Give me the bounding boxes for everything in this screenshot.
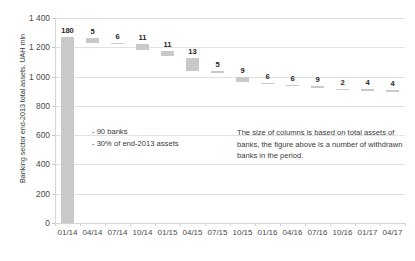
y-tick-label: 800 [16, 101, 50, 111]
x-tick-mark [280, 223, 281, 226]
x-tick-label: 04/15 [182, 228, 202, 237]
x-tick-mark [355, 223, 356, 226]
x-tick-mark [105, 223, 106, 226]
bar [336, 89, 349, 90]
bar [386, 90, 399, 91]
x-tick-mark [305, 223, 306, 226]
bar-value-label: 6 [265, 72, 269, 81]
y-tick-label: 400 [16, 159, 50, 169]
x-tick-label: 01/15 [157, 228, 177, 237]
bar-value-label: 9 [240, 66, 244, 75]
x-tick-mark [330, 223, 331, 226]
x-tick-label: 01/17 [357, 228, 377, 237]
gridline [55, 106, 405, 107]
x-tick-label: 04/14 [82, 228, 102, 237]
waterfall-chart: Banking sector end-2013 total assets, UA… [0, 0, 415, 261]
bar [161, 51, 174, 57]
gridline [55, 194, 405, 195]
x-tick-mark [230, 223, 231, 226]
x-tick-label: 10/16 [332, 228, 352, 237]
annotation-summary-banks: - 90 banks - 30% of end-2013 assets [92, 126, 212, 149]
x-tick-label: 10/14 [132, 228, 152, 237]
y-tick-label: 200 [16, 189, 50, 199]
x-tick-mark [155, 223, 156, 226]
bar-value-label: 11 [138, 33, 146, 42]
bar [311, 86, 324, 88]
bar-value-label: 4 [390, 79, 394, 88]
bar [136, 44, 149, 50]
x-tick-label: 10/15 [232, 228, 252, 237]
bar [111, 43, 124, 44]
bar [361, 89, 374, 90]
x-tick-mark [55, 223, 56, 226]
bar-value-label: 9 [315, 75, 319, 84]
y-tick-label: 600 [16, 130, 50, 140]
bar-value-label: 2 [340, 78, 344, 87]
plot-area [55, 18, 405, 223]
y-tick-label: 0 [16, 218, 50, 228]
x-tick-label: 07/15 [207, 228, 227, 237]
y-tick-label: 1 000 [16, 72, 50, 82]
x-tick-label: 04/16 [282, 228, 302, 237]
bar-value-label: 5 [90, 27, 94, 36]
bar [86, 38, 99, 43]
bar-value-label: 5 [215, 60, 219, 69]
bar [61, 37, 74, 223]
bar-value-label: 180 [61, 26, 74, 35]
x-tick-label: 04/17 [382, 228, 402, 237]
x-tick-label: 01/16 [257, 228, 277, 237]
y-tick-label: 1 200 [16, 42, 50, 52]
gridline [55, 77, 405, 78]
bar [236, 77, 249, 83]
bar-value-label: 13 [188, 47, 196, 56]
bar-value-label: 6 [290, 74, 294, 83]
y-axis-line [55, 18, 56, 223]
bar-value-label: 11 [163, 40, 171, 49]
x-tick-mark [405, 223, 406, 226]
x-tick-mark [205, 223, 206, 226]
x-tick-mark [130, 223, 131, 226]
gridline [55, 164, 405, 165]
x-tick-label: 07/14 [107, 228, 127, 237]
x-tick-mark [380, 223, 381, 226]
bar [286, 85, 299, 86]
annotation-chart-note: The size of columns is based on total as… [237, 127, 407, 162]
y-tick-label: 1 400 [16, 13, 50, 23]
bar [186, 58, 199, 71]
bar-value-label: 4 [365, 78, 369, 87]
x-tick-mark [80, 223, 81, 226]
x-tick-label: 07/16 [307, 228, 327, 237]
x-tick-mark [180, 223, 181, 226]
bar-value-label: 6 [115, 32, 119, 41]
gridline [55, 18, 405, 19]
x-tick-label: 01/14 [57, 228, 77, 237]
x-tick-mark [255, 223, 256, 226]
gridline [55, 47, 405, 48]
bar [211, 71, 224, 72]
bar [261, 83, 274, 84]
